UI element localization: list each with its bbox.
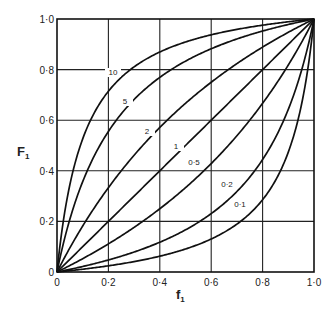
y-axis-ticks: 00·20·40·60·81·0 — [40, 14, 55, 278]
y-tick-label: 1·0 — [40, 14, 55, 25]
x-tick-label: 0·6 — [204, 277, 219, 288]
curve-label: 0·5 — [188, 158, 200, 167]
x-tick-label: 0·4 — [153, 277, 168, 288]
curve-label: 5 — [123, 97, 128, 106]
curve-label: 2 — [145, 127, 150, 136]
y-axis-title: F1 — [17, 144, 30, 161]
y-tick-label: 0·6 — [40, 115, 55, 126]
curve-label: 1 — [174, 142, 179, 151]
curve-label: 10 — [109, 68, 118, 77]
x-axis-title: f1 — [176, 287, 185, 304]
copolymer-composition-chart: 00·20·40·60·81·0 00·20·40·60·81·0 105210… — [0, 0, 335, 314]
data-curves — [57, 19, 314, 272]
y-tick-label: 0 — [48, 267, 54, 278]
curve-labels: 105210·50·20·1 — [105, 68, 248, 209]
x-tick-label: 0 — [54, 277, 60, 288]
y-tick-label: 0·8 — [40, 65, 55, 76]
y-tick-label: 0·2 — [40, 216, 55, 227]
x-axis-ticks: 00·20·40·60·81·0 — [54, 277, 321, 288]
x-tick-label: 1·0 — [307, 277, 322, 288]
x-tick-label: 0·8 — [255, 277, 270, 288]
curve-label: 0·2 — [221, 180, 233, 189]
x-tick-label: 0·2 — [101, 277, 116, 288]
y-tick-label: 0·4 — [40, 166, 55, 177]
curve-label: 0·1 — [234, 200, 246, 209]
curve-r-1 — [57, 19, 314, 272]
